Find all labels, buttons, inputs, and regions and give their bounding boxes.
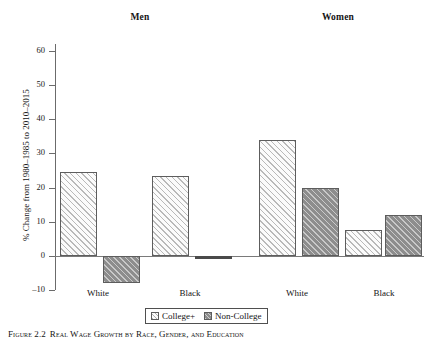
y-axis-tick-label: 10 (15, 216, 45, 226)
legend-label-college: College+ (162, 311, 195, 321)
y-axis-tick (49, 290, 55, 291)
bar-women-black-college (345, 230, 382, 256)
y-axis-tick (49, 119, 55, 120)
legend: College+ Non-College (145, 308, 268, 324)
bar-men-black-noncollege (195, 256, 232, 259)
bar-women-black-noncollege (385, 215, 422, 256)
bar-men-white-college (60, 172, 97, 256)
x-axis-label-men-black: Black (155, 288, 225, 298)
legend-label-noncollege: Non-College (215, 311, 262, 321)
figure-caption-label: Figure 2.2 (8, 329, 46, 339)
legend-swatch-college-icon (151, 312, 159, 320)
y-axis-tick (49, 85, 55, 86)
y-axis-tick-label: 0 (15, 250, 45, 260)
figure-caption-title: Real Wage Growth by Race, Gender, and Ed… (50, 329, 244, 339)
x-axis-label-men-white: White (63, 288, 133, 298)
panel-title-women: Women (298, 12, 378, 22)
y-axis-tick-label: 40 (15, 113, 45, 123)
x-axis-label-women-black: Black (349, 288, 419, 298)
figure-container: Men Women % Change from 1980–1985 to 201… (0, 0, 434, 347)
y-axis-tick (49, 188, 55, 189)
legend-swatch-noncollege-icon (204, 312, 212, 320)
y-axis-tick-label: 30 (15, 147, 45, 157)
bar-women-white-noncollege (302, 188, 339, 256)
figure-caption: Figure 2.2Real Wage Growth by Race, Gend… (8, 329, 244, 339)
bar-men-black-college (152, 176, 189, 256)
y-axis-tick-label: –10 (15, 284, 45, 294)
y-axis-line (55, 44, 56, 290)
panel-title-men: Men (100, 12, 180, 22)
x-axis-label-women-white: White (262, 288, 332, 298)
legend-entry-noncollege[interactable]: Non-College (204, 311, 262, 321)
y-axis-tick (49, 153, 55, 154)
y-axis-tick (49, 222, 55, 223)
y-axis-tick-label: 50 (15, 79, 45, 89)
bar-women-white-college (259, 140, 296, 256)
y-axis-tick-label: 20 (15, 182, 45, 192)
bar-men-white-noncollege (103, 256, 140, 283)
legend-entry-college[interactable]: College+ (151, 311, 195, 321)
y-axis-tick-label: 60 (15, 45, 45, 55)
y-axis-tick (49, 51, 55, 52)
